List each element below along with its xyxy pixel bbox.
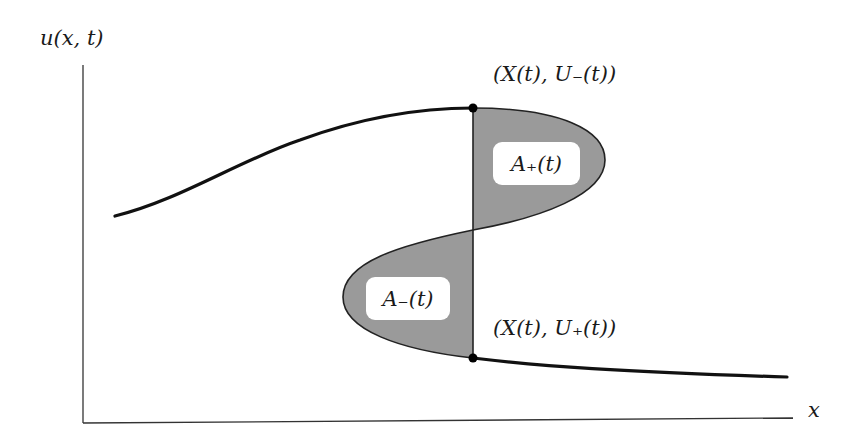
right-branch-curve	[473, 358, 787, 377]
point-top-label: (X(t), U₋(t))	[493, 64, 616, 85]
area-plus-label: A₊(t)	[493, 142, 580, 185]
left-branch-curve	[115, 108, 473, 216]
x-axis	[83, 418, 793, 423]
shock-diagram	[0, 0, 856, 442]
x-axis-label: x	[808, 400, 820, 421]
point-bottom-label: (X(t), U₊(t))	[493, 318, 616, 339]
point-bottom-dot	[469, 354, 478, 363]
y-axis-label: u(x, t)	[40, 28, 104, 49]
point-top-dot	[469, 104, 478, 113]
area-minus-label: A₋(t)	[366, 277, 450, 320]
